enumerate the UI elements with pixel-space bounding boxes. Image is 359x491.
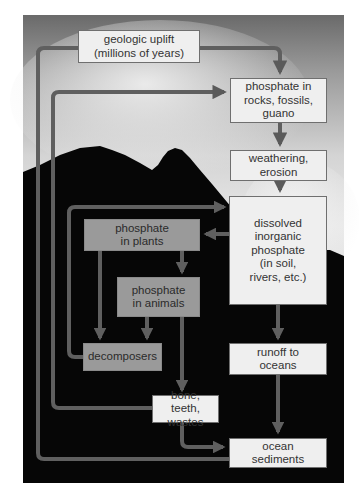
- node-bone-teeth-wastes: bone, teeth, wastes: [152, 395, 219, 423]
- node-decomposers: decomposers: [83, 343, 162, 371]
- node-phosphate-animals: phosphate in animals: [117, 277, 200, 317]
- node-dissolved-phosphate: dissolved inorganic phosphate (in soil, …: [229, 196, 327, 305]
- node-phosphate-rocks: phosphate in rocks, fossils, guano: [230, 78, 327, 123]
- node-phosphate-plants: phosphate in plants: [84, 219, 200, 251]
- phosphorus-cycle-diagram: geologic uplift (millions of years) phos…: [0, 0, 359, 491]
- node-runoff: runoff to oceans: [229, 343, 327, 375]
- node-geologic-uplift: geologic uplift (millions of years): [78, 30, 200, 63]
- node-weathering: weathering, erosion: [230, 150, 327, 181]
- node-ocean-sediments: ocean sediments: [229, 438, 327, 468]
